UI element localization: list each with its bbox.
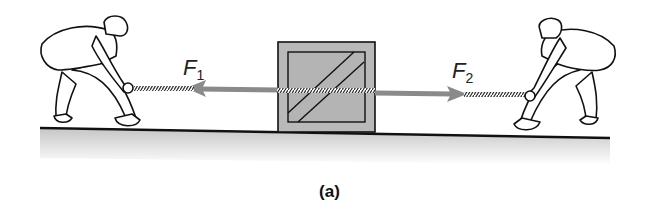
figure-caption: (a) (0, 182, 659, 202)
tug-of-war-diagram (0, 0, 659, 210)
force-symbol: F (452, 58, 465, 83)
person-left (41, 16, 140, 126)
force-label-f1: F1 (183, 55, 204, 83)
crate (278, 42, 375, 132)
person-right (514, 18, 615, 129)
ground-shading (40, 129, 610, 165)
force-label-f2: F2 (452, 58, 473, 86)
force-subscript: 1 (196, 67, 204, 83)
force-arrow-f2 (375, 86, 467, 102)
force-subscript: 2 (465, 70, 473, 86)
force-symbol: F (183, 55, 196, 80)
